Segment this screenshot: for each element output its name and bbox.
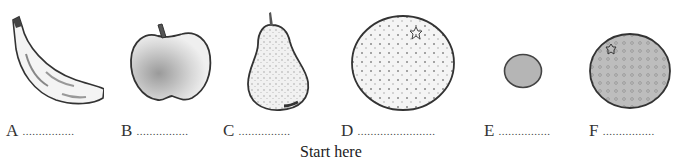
answer-label-b: B................: [121, 121, 189, 141]
start-here-label: Start here: [300, 143, 362, 161]
answer-blank-a[interactable]: ................: [22, 125, 74, 137]
answer-blank-d[interactable]: ........................: [357, 125, 435, 137]
small-fruit-e-illustration: [503, 53, 543, 89]
label-letter: B: [121, 121, 133, 140]
banana-illustration: [4, 14, 104, 106]
answer-label-d: D........................: [341, 121, 435, 141]
label-letter: F: [589, 121, 599, 140]
label-letter: E: [484, 121, 495, 140]
answer-blank-c[interactable]: ................: [239, 125, 291, 137]
answer-blank-b[interactable]: ................: [137, 125, 189, 137]
label-letter: C: [223, 121, 235, 140]
answer-blank-f[interactable]: ................: [603, 125, 655, 137]
orange-f-illustration: [589, 32, 673, 110]
answer-label-e: E................: [484, 121, 551, 141]
apple-illustration: [128, 22, 214, 102]
answer-label-f: F................: [589, 121, 655, 141]
label-letter: D: [341, 121, 353, 140]
pear-illustration: [244, 10, 314, 112]
answer-blank-e[interactable]: ................: [499, 125, 551, 137]
answer-label-c: C................: [223, 121, 291, 141]
label-letter: A: [6, 121, 18, 140]
answer-label-a: A................: [6, 121, 74, 141]
orange-d-illustration: [350, 14, 456, 112]
